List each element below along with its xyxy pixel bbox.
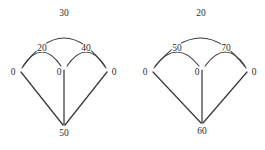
- node-label-right-graph-middle: 0: [195, 67, 200, 77]
- node-label-left-graph-bottom: 50: [59, 128, 69, 138]
- edge-line-right-graph-left-to-bottom: [153, 72, 201, 123]
- edge-line-right-to-bottom: [65, 72, 107, 125]
- edge-arc-left-inner-left: [23, 52, 61, 66]
- left-graph: 30 20 40 0 0 0 50: [11, 8, 117, 138]
- edge-line-left-to-bottom: [21, 72, 63, 125]
- edge-label-right-outer: 20: [196, 8, 206, 18]
- edge-label-left-outer: 30: [59, 8, 69, 18]
- node-label-left-graph-left: 0: [11, 67, 16, 77]
- edge-line-right-graph-right-to-bottom: [203, 72, 247, 123]
- node-label-right-graph-left: 0: [143, 67, 148, 77]
- edge-label-right-inner-left: 50: [172, 43, 182, 53]
- edge-arc-right-inner-right: [205, 52, 245, 66]
- diagram-canvas: 30 20 40 0 0 0 50 20 50 70 0 0 0 60: [0, 0, 265, 150]
- graph-diagrams-svg: 30 20 40 0 0 0 50 20 50 70 0 0 0 60: [0, 0, 265, 150]
- edge-arc-right-inner-left: [155, 52, 199, 66]
- node-label-right-graph-right: 0: [252, 67, 257, 77]
- edge-label-left-inner-left: 20: [37, 43, 47, 53]
- node-label-left-graph-middle: 0: [57, 67, 62, 77]
- edge-arc-left-outer: [22, 38, 106, 68]
- node-label-left-graph-right: 0: [112, 67, 117, 77]
- node-label-right-graph-bottom: 60: [197, 126, 207, 136]
- edge-label-right-inner-right: 70: [221, 43, 231, 53]
- edge-label-left-inner-right: 40: [81, 43, 91, 53]
- right-graph: 20 50 70 0 0 0 60: [143, 8, 257, 136]
- edge-arc-left-inner-right: [67, 52, 105, 66]
